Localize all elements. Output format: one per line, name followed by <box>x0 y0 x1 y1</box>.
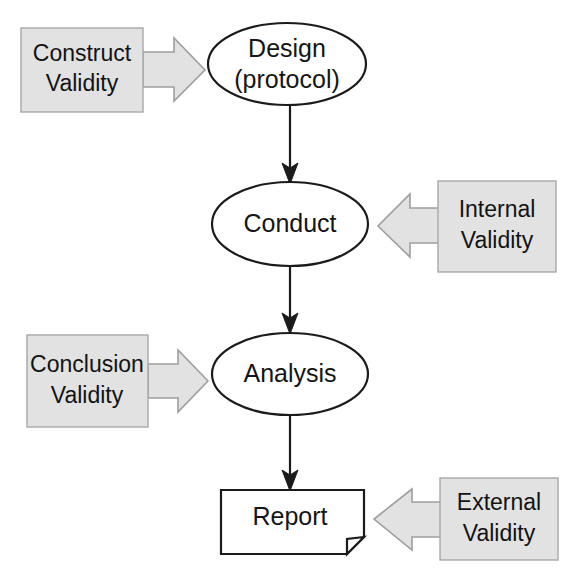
annotation-external-validity[interactable]: External Validity <box>374 478 558 560</box>
internal-validity-line2: Validity <box>461 227 534 253</box>
node-report[interactable]: Report <box>221 490 364 554</box>
annotation-conclusion-validity[interactable]: Conclusion Validity <box>27 335 208 427</box>
report-folded-corner-icon <box>347 537 364 554</box>
design-label-line2: (protocol) <box>234 65 340 93</box>
connector-analysis-to-report <box>282 415 298 491</box>
node-analysis[interactable]: Analysis <box>212 333 368 415</box>
design-label-line1: Design <box>248 34 326 62</box>
validity-flow-diagram: Construct Validity Design (protocol) Con… <box>0 0 571 587</box>
connector-conduct-to-analysis <box>282 266 298 334</box>
construct-validity-line1: Construct <box>33 40 132 66</box>
arrow-left-internal-validity <box>378 194 441 257</box>
conclusion-validity-line2: Validity <box>51 382 124 408</box>
arrow-right-construct-validity <box>143 38 205 101</box>
node-design[interactable]: Design (protocol) <box>208 23 366 105</box>
annotation-box-conclusion-validity <box>27 335 148 427</box>
node-conduct[interactable]: Conduct <box>212 182 368 266</box>
conclusion-validity-line1: Conclusion <box>30 351 144 377</box>
report-label: Report <box>252 502 327 530</box>
arrow-left-external-validity <box>374 489 443 550</box>
construct-validity-line2: Validity <box>46 70 119 96</box>
connector-design-to-conduct <box>282 106 298 184</box>
external-validity-line1: External <box>457 489 541 515</box>
external-validity-line2: Validity <box>463 520 536 546</box>
arrow-right-conclusion-validity <box>148 350 208 412</box>
annotation-construct-validity[interactable]: Construct Validity <box>21 28 205 112</box>
analysis-label: Analysis <box>243 359 336 387</box>
diagram-canvas: Construct Validity Design (protocol) Con… <box>0 0 571 587</box>
annotation-internal-validity[interactable]: Internal Validity <box>378 181 556 272</box>
conduct-label: Conduct <box>243 209 336 237</box>
internal-validity-line1: Internal <box>459 196 536 222</box>
